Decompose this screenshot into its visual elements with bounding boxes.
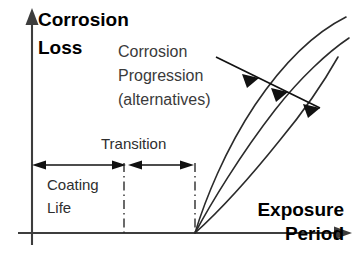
progression-label-line2: Progression [118,67,203,84]
transition-right-arrowhead-icon [180,161,194,170]
y-axis-arrowhead-icon [26,8,39,25]
y-axis-label-line2: Loss [38,37,82,58]
x-axis-label-line1: Exposure [257,199,344,220]
coating-life-label-line2: Life [47,199,71,216]
diagram-canvas: Corrosion Loss Exposure Period Corrosion… [0,0,361,267]
transition-label: Transition [101,135,166,152]
transition-left-arrowhead-icon [128,161,142,170]
zone-boundary-group [124,163,195,233]
progression-label-line1: Corrosion [118,43,187,60]
coating-life-left-arrowhead-icon [32,161,46,170]
progression-arrowhead-middle-icon [271,88,288,102]
progression-label-line3: (alternatives) [118,91,210,108]
progression-leader-line [216,57,320,108]
coating-life-dimension [32,161,126,170]
coating-life-label-line1: Coating [47,176,99,193]
y-axis-label-line1: Corrosion [38,9,129,30]
x-axis-label-line2: Period [285,223,344,244]
transition-dimension [128,161,194,170]
corrosion-diagram: Corrosion Loss Exposure Period Corrosion… [0,0,361,267]
